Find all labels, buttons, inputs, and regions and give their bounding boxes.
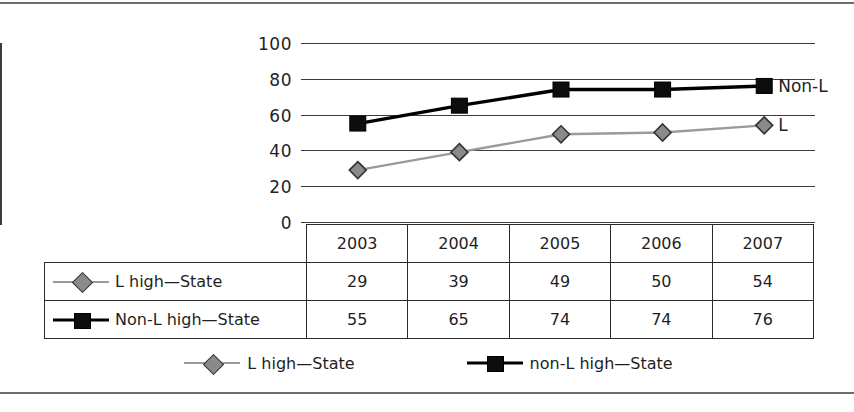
series-swatch	[467, 354, 523, 372]
series-swatch	[53, 273, 109, 291]
table-cell: 74	[509, 301, 610, 339]
y-axis-line	[0, 43, 2, 225]
table-row-header: Non-L high—State	[45, 301, 307, 339]
series-non-l	[350, 78, 772, 131]
legend-label: non-L high—State	[530, 354, 673, 373]
series-swatch	[184, 354, 240, 372]
data-marker-square	[350, 116, 366, 131]
y-tick-0: 0	[301, 222, 307, 223]
diamond-marker-icon	[71, 272, 92, 293]
table-column-header: 2003	[307, 225, 408, 263]
table-column-header: 2006	[611, 225, 712, 263]
data-marker-square	[553, 82, 569, 97]
table-row: Non-L high—State5565747476	[45, 301, 814, 339]
table-cell: 74	[611, 301, 712, 339]
table-cell: 29	[307, 263, 408, 301]
y-tick-label: 80	[269, 70, 292, 90]
table-header-row: 20032004200520062007	[45, 225, 814, 263]
y-tick-label: 60	[269, 106, 292, 126]
legend-label: L high—State	[247, 354, 354, 373]
y-tick-label: 100	[258, 34, 292, 54]
data-marker-diamond	[756, 117, 773, 134]
gridline-0	[307, 222, 815, 223]
table-row: L high—State2939495054	[45, 263, 814, 301]
table-cell: 49	[509, 263, 610, 301]
series-plot	[307, 43, 815, 222]
table-cell: 39	[408, 263, 509, 301]
row-header-content: Non-L high—State	[53, 310, 306, 329]
table-row-label: Non-L high—State	[115, 310, 260, 329]
plot-area: 100806040200 LNon-L	[307, 43, 815, 222]
data-marker-square	[451, 98, 467, 113]
table-cell: 50	[611, 263, 712, 301]
table-row-label: L high—State	[115, 272, 222, 291]
table-cell: 55	[307, 301, 408, 339]
table-column-header: 2005	[509, 225, 610, 263]
square-marker-icon	[487, 356, 504, 372]
table-row-header: L high—State	[45, 263, 307, 301]
table-column-header: 2004	[408, 225, 509, 263]
table-column-header: 2007	[712, 225, 813, 263]
data-marker-square	[756, 78, 772, 93]
data-marker-diamond	[654, 124, 671, 141]
series-l	[349, 117, 772, 179]
square-marker-icon	[74, 313, 91, 329]
legend-entry: L high—State	[184, 354, 354, 373]
table-cell: 54	[712, 263, 813, 301]
diamond-marker-icon	[203, 353, 224, 374]
y-tick-label: 40	[269, 141, 292, 161]
data-marker-diamond	[349, 162, 366, 179]
table-corner-cell	[45, 225, 307, 263]
legend-entry: non-L high—State	[467, 354, 673, 373]
data-marker-diamond	[451, 144, 468, 161]
table-cell: 65	[408, 301, 509, 339]
series-swatch	[53, 311, 109, 329]
row-header-content: L high—State	[53, 272, 306, 291]
chart-legend: L high—Statenon-L high—State	[44, 350, 813, 376]
data-table: 20032004200520062007L high—State29394950…	[44, 224, 814, 339]
data-marker-square	[655, 82, 671, 97]
y-tick-label: 20	[269, 177, 292, 197]
data-marker-diamond	[553, 126, 570, 143]
series-annotation-non-l: Non-L	[778, 76, 828, 96]
table-cell: 76	[712, 301, 813, 339]
line-chart-figure: 100806040200 LNon-L 20032004200520062007…	[0, 0, 854, 412]
series-annotation-l: L	[778, 115, 787, 135]
